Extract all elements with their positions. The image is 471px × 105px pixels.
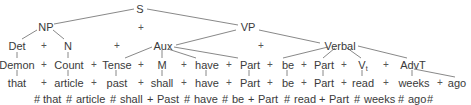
syntax-tree-diagram: S NP + VP Det + N + Aux + Verbal Demon +…: [0, 0, 471, 105]
plus-sign: +: [341, 77, 347, 89]
plus-sign: +: [91, 77, 97, 89]
terminal-that: that: [8, 77, 26, 89]
derived-word: Part: [258, 93, 278, 105]
node-be: be: [282, 59, 294, 71]
boundary-symbol: #: [66, 93, 72, 105]
terminal-be: be: [282, 77, 294, 89]
plus-sign: +: [181, 59, 187, 71]
plus-sign: +: [301, 77, 307, 89]
tree-edges: [0, 0, 471, 105]
plus-sign: +: [138, 77, 144, 89]
plus-sign: +: [319, 93, 325, 105]
plus-sign: +: [267, 59, 273, 71]
plus-sign: +: [226, 77, 232, 89]
derived-word: article: [76, 93, 105, 105]
plus-sign: +: [267, 77, 273, 89]
plus-sign: +: [181, 77, 187, 89]
node-n: N: [64, 40, 72, 52]
terminal-weeks: weeks: [398, 77, 429, 89]
derived-word: weeks: [364, 93, 395, 105]
derived-word: shall: [120, 93, 143, 105]
terminal-have: have: [195, 77, 219, 89]
node-det: Det: [8, 40, 25, 52]
boundary-symbol: #: [110, 93, 116, 105]
node-vt-subscript: t: [366, 65, 368, 72]
boundary-symbol: #: [284, 93, 290, 105]
node-part-1: Part: [240, 59, 260, 71]
node-s: S: [136, 3, 143, 15]
plus-sign: +: [91, 59, 97, 71]
boundary-symbol: #: [34, 93, 40, 105]
plus-sign: +: [138, 59, 144, 71]
node-part-2: Part: [314, 59, 334, 71]
terminal-shall: shall: [151, 77, 174, 89]
terminal-past: past: [107, 77, 128, 89]
plus-sign: +: [341, 59, 347, 71]
derived-word: Past: [157, 93, 179, 105]
plus-sign: +: [147, 93, 153, 105]
node-count: Count: [54, 59, 83, 71]
derived-word: Part: [329, 93, 349, 105]
node-verbal: Verbal: [324, 40, 355, 52]
boundary-symbol: #: [398, 93, 404, 105]
plus-sign: +: [383, 77, 389, 89]
node-vt: Vt: [358, 59, 367, 75]
plus-sign: +: [437, 77, 443, 89]
node-vp: VP: [241, 21, 256, 33]
node-m: M: [157, 59, 166, 71]
plus-sign: +: [138, 22, 144, 34]
derived-word: that: [43, 93, 61, 105]
node-tense: Tense: [102, 59, 131, 71]
plus-sign: +: [41, 59, 47, 71]
plus-sign: +: [383, 59, 389, 71]
terminal-read: read: [352, 77, 374, 89]
terminal-part-1: Part: [240, 77, 260, 89]
plus-sign: +: [301, 59, 307, 71]
boundary-symbol: #: [427, 93, 433, 105]
boundary-symbol: #: [354, 93, 360, 105]
derived-word: ago: [408, 93, 426, 105]
node-np: NP: [38, 21, 53, 33]
plus-sign: +: [248, 93, 254, 105]
boundary-symbol: #: [222, 93, 228, 105]
plus-sign: +: [114, 40, 120, 52]
terminal-ago: ago: [448, 77, 466, 89]
node-demon: Demon: [0, 59, 35, 71]
boundary-symbol: #: [184, 93, 190, 105]
terminal-article: article: [54, 77, 83, 89]
node-advt: AdvT: [400, 59, 426, 71]
plus-sign: +: [41, 40, 47, 52]
plus-sign: +: [258, 40, 264, 52]
node-have: have: [195, 59, 219, 71]
derived-word: have: [194, 93, 218, 105]
plus-sign: +: [41, 77, 47, 89]
terminal-part-2: Part: [314, 77, 334, 89]
node-aux: Aux: [154, 40, 173, 52]
derived-word: read: [294, 93, 316, 105]
plus-sign: +: [226, 59, 232, 71]
derived-word: be: [232, 93, 244, 105]
